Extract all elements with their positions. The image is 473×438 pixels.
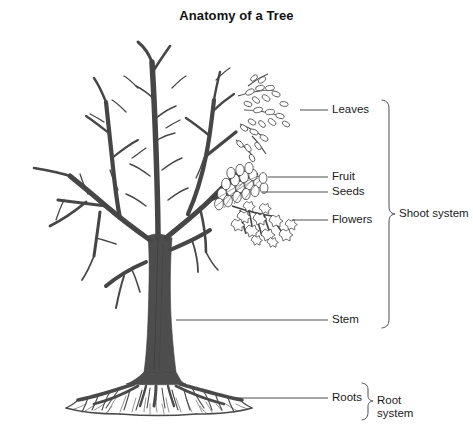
- root-ground-line-center: [120, 414, 196, 416]
- roots-group: [66, 384, 252, 416]
- branch-twig-c3: [157, 133, 175, 140]
- label-root-system: Root system: [377, 394, 413, 420]
- label-shoot-system: Shoot system: [399, 207, 469, 220]
- branch-central-leader: [152, 62, 158, 238]
- branch-lower-left: [106, 262, 146, 286]
- branch-left-descend-tip-a: [82, 256, 94, 280]
- branch-central-top-split-b: [154, 46, 170, 70]
- branch-left-descend: [94, 212, 100, 256]
- branch-lower-left-twig-a: [116, 276, 124, 308]
- branch-right-descend-tip: [206, 252, 218, 270]
- flowers-cluster: [231, 201, 297, 247]
- label-leaves: Leaves: [332, 103, 369, 115]
- branch-left-main: [70, 176, 150, 240]
- branch-twig-c1: [156, 106, 176, 118]
- label-fruit: Fruit: [332, 170, 355, 182]
- branch-structure: [34, 42, 244, 308]
- branch-left-upper-tip-c: [112, 140, 138, 158]
- root-fibers: [66, 388, 252, 412]
- branch-inner-twig-i: [112, 100, 126, 112]
- branch-inner-twig-h: [56, 200, 64, 220]
- leader-lines: [176, 110, 328, 398]
- branch-inner-twig-d: [162, 158, 182, 170]
- branch-inner-twig-k: [172, 76, 186, 88]
- branch-right-second-twig: [192, 240, 198, 272]
- label-stem: Stem: [332, 313, 359, 325]
- leaves-cluster: [236, 74, 291, 163]
- branch-inner-twig-n: [132, 148, 146, 158]
- branch-inner-twig-b: [126, 194, 146, 206]
- bracket-shoot-system: [382, 100, 395, 328]
- branch-inner-twig-o: [166, 120, 180, 128]
- label-flowers: Flowers: [332, 213, 372, 225]
- bracket-root-system: [362, 383, 373, 420]
- root-hairs: [74, 396, 248, 414]
- branch-inner-twig-l: [216, 68, 230, 80]
- fruit-cluster: [212, 162, 268, 209]
- trunk-shape: [144, 234, 176, 373]
- branch-right-descend: [200, 208, 206, 252]
- label-roots: Roots: [332, 391, 362, 403]
- fruit-bodies: [215, 162, 268, 209]
- branch-inner-twig-c: [130, 164, 150, 176]
- branch-left-far-3: [50, 202, 86, 226]
- system-brackets: [362, 100, 395, 420]
- branch-central-top-split-a: [138, 42, 152, 62]
- tree-anatomy-diagram: Anatomy of a Tree: [0, 0, 473, 438]
- trunk-group: [126, 234, 186, 384]
- branch-inner-twig-j: [124, 76, 138, 88]
- branch-lower-left-twig-b: [132, 270, 140, 292]
- label-seeds: Seeds: [332, 185, 365, 197]
- root-center-down: [154, 386, 156, 406]
- branch-right-mid-2: [186, 118, 210, 136]
- branch-left-upper: [106, 102, 120, 218]
- branch-left-descend-tip-b: [96, 238, 116, 244]
- branch-right-second: [170, 230, 210, 250]
- branch-left-upper-tip-a: [94, 78, 106, 102]
- branch-inner-twig-a: [168, 188, 188, 200]
- branch-left-far-2: [34, 168, 70, 176]
